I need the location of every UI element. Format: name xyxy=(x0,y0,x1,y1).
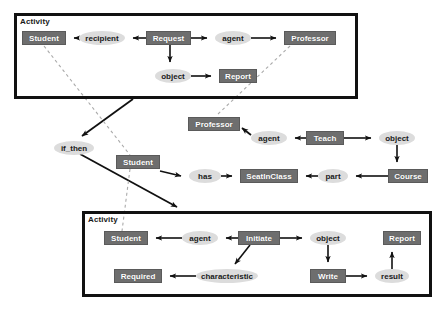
node-student-top[interactable]: Student xyxy=(22,31,66,45)
diagram-canvas: Activity Activity Student Request Profes… xyxy=(0,0,445,311)
node-required[interactable]: Required xyxy=(114,269,162,283)
node-initiate[interactable]: Initiate xyxy=(238,231,280,245)
node-agent-bottom[interactable]: agent xyxy=(182,231,218,245)
node-request[interactable]: Request xyxy=(146,31,191,45)
node-object-bottom[interactable]: object xyxy=(310,231,346,245)
node-professor-top[interactable]: Professor xyxy=(284,31,336,45)
node-course[interactable]: Course xyxy=(388,169,428,183)
edge-agent-professor-mid xyxy=(242,128,251,135)
node-if-then[interactable]: if_then xyxy=(54,141,94,155)
activity-label-top: Activity xyxy=(20,17,50,26)
node-write[interactable]: Write xyxy=(310,269,346,283)
activity-box-bottom[interactable] xyxy=(82,211,432,297)
node-characteristic[interactable]: characteristic xyxy=(196,269,258,283)
node-report-bottom[interactable]: Report xyxy=(383,231,421,245)
node-object-mid[interactable]: object xyxy=(379,131,415,145)
node-professor-mid[interactable]: Professor xyxy=(188,117,240,131)
node-seatinclass[interactable]: SeatInClass xyxy=(240,169,298,183)
node-result[interactable]: result xyxy=(375,269,409,283)
edge-activitytop-ifthen xyxy=(82,99,133,136)
node-student-mid[interactable]: Student xyxy=(116,155,160,169)
node-recipient-top[interactable]: recipient xyxy=(79,31,125,45)
node-object-top[interactable]: object xyxy=(155,69,191,83)
node-agent-mid[interactable]: agent xyxy=(251,131,287,145)
node-part[interactable]: part xyxy=(318,169,348,183)
node-teach[interactable]: Teach xyxy=(306,131,344,145)
node-agent-top[interactable]: agent xyxy=(215,31,251,45)
edge-student-has xyxy=(160,171,181,176)
activity-label-bottom: Activity xyxy=(88,215,118,224)
activity-box-top[interactable] xyxy=(14,13,358,99)
node-student-bottom[interactable]: Student xyxy=(104,231,148,245)
node-report-top[interactable]: Report xyxy=(219,69,257,83)
node-has[interactable]: has xyxy=(189,169,221,183)
